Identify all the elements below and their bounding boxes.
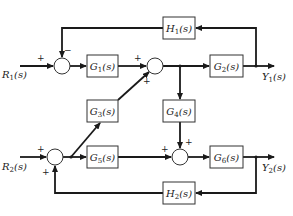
- sign-s4-g4: +: [185, 137, 193, 147]
- branch-point-y2: [254, 155, 257, 158]
- summing-junction-1: [54, 58, 70, 74]
- block-g2: G2(s): [210, 55, 243, 77]
- summing-junction-3: [47, 149, 63, 165]
- h2-to-s3-wire: [55, 166, 163, 193]
- branch-point-g3: [69, 155, 72, 158]
- input-r1-label: R1(s): [1, 69, 27, 82]
- input-r2-label: R2(s): [1, 161, 27, 174]
- block-g5: G5(s): [87, 146, 118, 168]
- block-diagram: G1(s) G2(s) H1(s) G3(s) G4(s) G5(s) G6(s…: [0, 0, 293, 216]
- h1-to-s1-wire: [62, 28, 163, 57]
- branch-point-y1: [254, 64, 257, 67]
- summing-junction-2: [147, 58, 163, 74]
- block-h1: H1(s): [163, 17, 195, 39]
- block-g6: G6(s): [210, 146, 243, 168]
- branch-point-g4: [178, 64, 181, 67]
- summing-junction-4: [172, 149, 188, 165]
- block-g3: G3(s): [87, 100, 118, 122]
- sign-s3-feedback: +: [42, 167, 50, 177]
- sign-s1-feedback: −: [64, 45, 72, 55]
- sign-s2-input: +: [134, 53, 142, 63]
- sign-s3-input: +: [37, 144, 45, 154]
- sign-s2-g3: +: [143, 76, 151, 86]
- output-y2-label: Y2(s): [262, 162, 286, 175]
- block-g4: G4(s): [163, 100, 195, 122]
- block-h2: H2(s): [163, 182, 195, 204]
- bottom-path-wires: [20, 72, 274, 193]
- block-g1: G1(s): [87, 55, 118, 77]
- sign-s4-input: +: [161, 144, 169, 154]
- output-y1-label: Y1(s): [262, 71, 286, 84]
- sign-s1-input: +: [37, 53, 45, 63]
